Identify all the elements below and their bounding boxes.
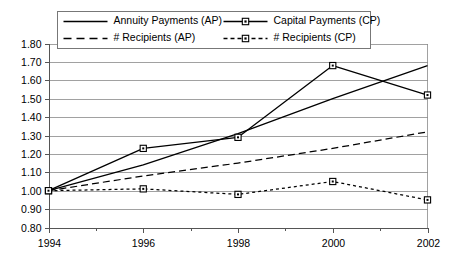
y-axis-ticks xyxy=(45,45,49,229)
x-axis xyxy=(49,228,429,233)
chart-legend: Annuity Payments (AP)Capital Payments (C… xyxy=(58,12,381,49)
data-point-center xyxy=(237,136,239,138)
data-point-center xyxy=(142,188,144,190)
data-point-center xyxy=(237,193,239,195)
y-tick-label: 1.30 xyxy=(21,130,42,142)
data-point-center xyxy=(332,181,334,183)
y-axis-tick-labels: 0.800.901.001.101.201.301.401.501.601.70… xyxy=(21,38,42,234)
x-tick-label: 2002 xyxy=(417,237,441,249)
y-tick-label: 0.80 xyxy=(21,222,42,234)
chart-canvas: 0.800.901.001.101.201.301.401.501.601.70… xyxy=(0,0,451,268)
legend-label: Capital Payments (CP) xyxy=(274,14,381,26)
y-tick-label: 1.40 xyxy=(21,111,42,123)
y-tick-label: 1.10 xyxy=(21,166,42,178)
legend-marker-center xyxy=(244,37,246,39)
x-tick-label: 1996 xyxy=(132,237,156,249)
series-line-0 xyxy=(49,66,428,191)
y-tick-label: 1.80 xyxy=(21,38,42,50)
data-series xyxy=(49,66,428,200)
data-point-center xyxy=(427,199,429,201)
y-tick-label: 1.70 xyxy=(21,56,42,68)
y-tick-label: 1.00 xyxy=(21,185,42,197)
series-line-1 xyxy=(49,66,428,191)
x-tick-label: 1998 xyxy=(227,237,251,249)
y-tick-label: 0.90 xyxy=(21,203,42,215)
x-tick-label: 1994 xyxy=(38,237,62,249)
legend-label: Annuity Payments (AP) xyxy=(114,14,223,26)
x-axis-tick-labels: 19941996199820002002 xyxy=(38,237,441,249)
y-tick-label: 1.50 xyxy=(21,93,42,105)
y-tick-label: 1.60 xyxy=(21,74,42,86)
data-point-center xyxy=(48,190,50,192)
data-point-center xyxy=(427,94,429,96)
data-point-center xyxy=(142,147,144,149)
x-tick-label: 2000 xyxy=(322,237,346,249)
line-chart: 0.800.901.001.101.201.301.401.501.601.70… xyxy=(0,0,451,268)
legend-label: # Recipients (CP) xyxy=(274,31,356,43)
y-tick-label: 1.20 xyxy=(21,148,42,160)
data-point-center xyxy=(332,65,334,67)
legend-label: # Recipients (AP) xyxy=(114,31,196,43)
legend-marker-center xyxy=(244,20,246,22)
